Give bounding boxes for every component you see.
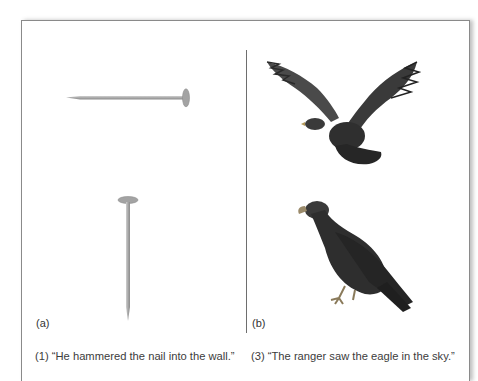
caption-3: (3) “The ranger saw the eagle in the sky… (251, 350, 455, 362)
nail-vertical-icon (117, 195, 141, 323)
eagle-flying-icon (265, 58, 425, 168)
eagle-perched-icon (295, 198, 420, 316)
nail-horizontal-icon (66, 88, 196, 108)
panel-label-a: (a) (36, 317, 49, 329)
panel-label-b: (b) (252, 317, 265, 329)
panel-divider (246, 50, 247, 333)
caption-1: (1) “He hammered the nail into the wall.… (35, 350, 235, 362)
